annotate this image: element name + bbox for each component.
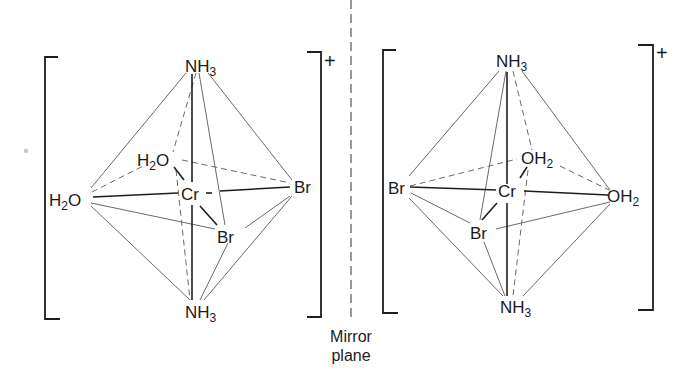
right-ligand-right-oh2: OH2 (607, 187, 640, 209)
right-ligand-left-br: Br (388, 179, 405, 198)
left-complex: + NH3 NH3 (45, 50, 336, 325)
enantiomer-diagram: + NH3 NH3 (0, 0, 699, 385)
right-ligand-front-br: Br (470, 224, 487, 243)
mirror-plane-label-line2: plane (331, 347, 370, 364)
right-ligand-back-oh2: OH2 (521, 149, 554, 171)
left-metal-cr: Cr (181, 185, 199, 204)
mirror-plane: Mirror plane (330, 0, 372, 364)
left-ligand-top-nh3: NH3 (185, 57, 217, 79)
left-ligand-front-br: Br (217, 228, 234, 247)
left-complex-bracket-open (45, 57, 60, 319)
left-ligand-right-br: Br (294, 178, 311, 197)
right-ligand-bottom-nh3: NH3 (500, 298, 532, 320)
speck (24, 149, 28, 153)
left-ligand-bottom-nh3: NH3 (185, 303, 217, 325)
right-complex-charge: + (656, 42, 668, 64)
right-complex: + NH3 NH3 Br OH2 OH2 (383, 42, 668, 320)
right-metal-cr: Cr (498, 182, 516, 201)
right-ligand-top-nh3: NH3 (496, 52, 528, 74)
left-ligand-left-h2o: H2O (49, 191, 81, 213)
left-complex-charge: + (324, 50, 336, 72)
left-ligand-back-h2o: H2O (137, 151, 169, 173)
right-complex-bracket-close (638, 45, 653, 310)
mirror-plane-label-line1: Mirror (330, 328, 372, 345)
